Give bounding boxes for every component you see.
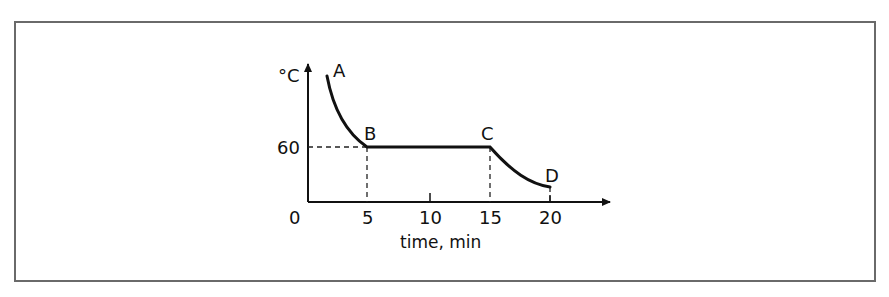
point-label-a: A xyxy=(333,60,346,81)
guide-lines xyxy=(308,147,550,202)
x-tick-label-20: 20 xyxy=(539,207,562,228)
temperature-time-chart: °C 60 0 5 10 15 20 time, min A B C D xyxy=(0,0,889,297)
y-tick-60: 60 xyxy=(277,137,300,158)
x-axis-title: time, min xyxy=(400,232,481,252)
x-tick-label-10: 10 xyxy=(419,207,442,228)
x-tick-label-15: 15 xyxy=(479,207,502,228)
point-label-c: C xyxy=(481,123,494,144)
temperature-curve xyxy=(327,76,550,187)
x-tick-label-0: 0 xyxy=(289,207,300,228)
y-unit-label: °C xyxy=(278,65,300,86)
point-label-b: B xyxy=(364,123,376,144)
x-tick-label-5: 5 xyxy=(362,207,373,228)
point-label-d: D xyxy=(545,165,559,186)
